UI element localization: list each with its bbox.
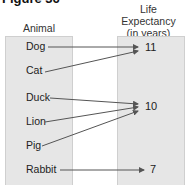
arrow-duck-to-10: [50, 98, 138, 104]
arrow-pig-to-10: [42, 111, 138, 146]
arrow-cat-to-11: [45, 51, 138, 72]
mapping-arrows: [0, 0, 185, 185]
arrow-lion-to-10: [45, 107, 138, 122]
